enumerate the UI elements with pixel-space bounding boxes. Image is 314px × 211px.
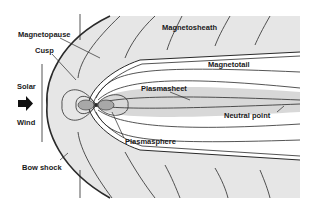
label-solar: Solar — [17, 83, 36, 91]
plasmasphere-lobe-left — [78, 100, 94, 110]
plasmasphere-lobe-right — [98, 100, 114, 110]
label-magnetotail: Magnetotail — [208, 61, 250, 69]
label-wind: Wind — [17, 119, 35, 127]
label-magnetopause: Magnetopause — [18, 31, 71, 39]
label-plasmasheet: Plasmasheet — [141, 85, 187, 93]
earth — [94, 103, 98, 107]
label-plasmasphere: Plasmasphere — [125, 138, 176, 146]
magnetosphere-diagram: Magnetosheath Magnetopause Cusp Magnetot… — [0, 0, 314, 211]
label-neutral-point: Neutral point — [224, 112, 270, 120]
right-arrow-icon — [18, 96, 33, 111]
label-magnetosheath: Magnetosheath — [162, 24, 217, 32]
label-bow-shock: Bow shock — [22, 164, 62, 172]
label-cusp: Cusp — [35, 47, 54, 55]
